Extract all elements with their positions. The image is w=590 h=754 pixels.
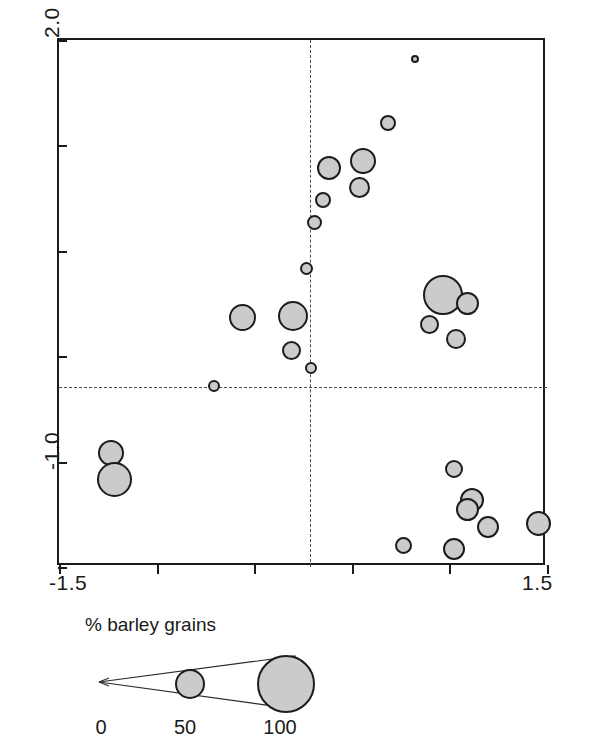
x-axis-tick <box>352 565 354 574</box>
legend-title: % barley grains <box>85 614 216 636</box>
legend-bubble-100 <box>257 655 315 713</box>
data-point <box>300 262 313 275</box>
data-point <box>317 156 341 180</box>
y-axis-tick <box>58 567 67 569</box>
x-axis-tick <box>157 565 159 574</box>
data-point <box>395 537 412 554</box>
bubble-scatter-figure: 2.0 -1.0 -1.5 1.5 % barley grains 0 50 1… <box>0 0 590 754</box>
plot-inner <box>59 40 543 563</box>
data-point <box>97 462 132 497</box>
data-point <box>307 215 322 230</box>
data-point <box>349 177 370 198</box>
reference-line-vertical <box>310 40 311 567</box>
legend-scale-label-0: 0 <box>95 716 106 739</box>
y-axis-tick <box>58 145 67 147</box>
y-axis-tick <box>58 356 67 358</box>
y-axis-label-bottom: -1.0 <box>40 432 64 470</box>
data-point <box>445 460 463 478</box>
plot-area <box>57 38 545 565</box>
x-axis-tick <box>449 565 451 574</box>
legend-scale-label-100: 100 <box>263 716 296 739</box>
data-point <box>380 115 396 131</box>
size-legend: % barley grains 0 50 100 <box>0 600 590 754</box>
legend-scale: 0 50 100 <box>85 716 335 746</box>
data-point <box>305 362 317 374</box>
y-axis-tick <box>58 251 67 253</box>
x-axis-tick <box>254 565 256 574</box>
data-point <box>443 538 465 560</box>
data-point <box>350 148 376 174</box>
y-axis-label-top: 2.0 <box>40 7 64 38</box>
y-axis-tick <box>58 40 67 42</box>
data-point <box>208 380 220 392</box>
data-point <box>278 301 308 331</box>
x-axis-label-right: 1.5 <box>522 571 553 595</box>
data-point <box>456 498 479 521</box>
data-point <box>456 292 479 315</box>
data-point <box>477 516 499 538</box>
data-point <box>315 192 331 208</box>
data-point <box>420 315 439 334</box>
data-point <box>446 329 466 349</box>
data-point <box>411 55 419 63</box>
legend-bubble-50 <box>175 669 205 699</box>
reference-line-horizontal <box>59 387 547 388</box>
data-point <box>229 304 256 331</box>
data-point <box>282 341 301 360</box>
data-point <box>526 511 551 536</box>
x-axis-label-left: -1.5 <box>49 571 87 595</box>
legend-scale-label-50: 50 <box>174 716 196 739</box>
legend-wedge <box>95 652 315 714</box>
